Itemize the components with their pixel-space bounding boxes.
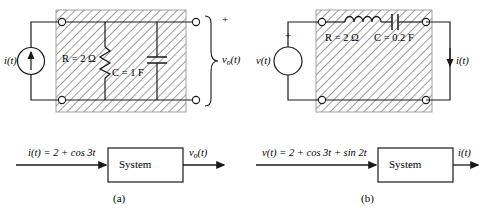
network-box-b (316, 10, 432, 112)
block-a-system-label: System (119, 159, 151, 170)
voltage-source-b (274, 47, 302, 75)
node-a-left-top (58, 18, 65, 25)
output-label-a-tail: (t) (230, 54, 240, 65)
block-a-output-label: vo(t) (189, 148, 207, 160)
output-terminal-a-top (192, 18, 199, 25)
output-current-label-b: i(t) (456, 56, 469, 67)
node-a-left-bottom (58, 96, 65, 103)
current-source-label-a: i(t) (4, 56, 17, 67)
voltage-source-label-b: v(t) (256, 56, 271, 67)
block-b-input-label: v(t) = 2 + cos 3t + sin 2t (262, 148, 367, 159)
output-polarity-a: + (222, 14, 228, 25)
output-label-a: vo(t) (222, 55, 240, 67)
caption-a: (a) (113, 193, 125, 204)
circuit-b (274, 10, 450, 112)
output-terminal-a-bottom (192, 96, 199, 103)
block-a-output-tail: (t) (197, 147, 207, 158)
circuit-a (18, 10, 219, 112)
resistor-label-b: R = 2 Ω (325, 33, 359, 44)
capacitor-label-a: C = 1 F (112, 68, 144, 79)
output-brace-a (205, 16, 218, 106)
node-b-left-top (318, 18, 325, 25)
node-b-left-bottom (318, 96, 325, 103)
figure-root: i(t) R = 2 Ω C = 1 F + vo(t) + v(t) R = … (0, 0, 480, 212)
caption-b: (b) (361, 193, 374, 204)
block-b-output-label: i(t) (458, 148, 471, 159)
source-polarity-b: + (285, 30, 291, 41)
capacitor-label-b: C = 0.2 F (374, 33, 414, 44)
resistor-label-a: R = 2 Ω (62, 54, 96, 65)
block-a-input-label: i(t) = 2 + cos 3t (28, 148, 96, 159)
block-b-system-label: System (389, 159, 421, 170)
